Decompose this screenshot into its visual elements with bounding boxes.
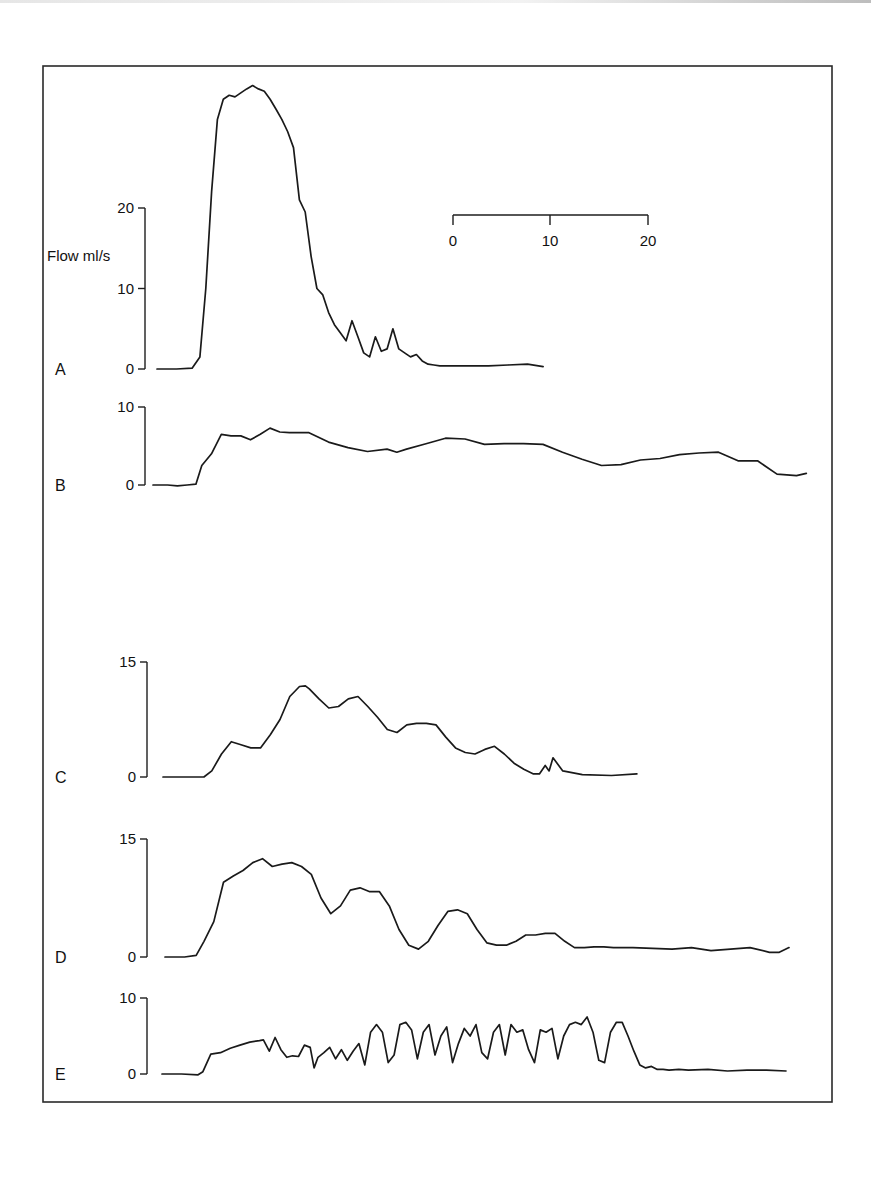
panel-label-c: C	[55, 769, 67, 786]
y-tick-label-c-0: 0	[128, 768, 136, 785]
uroflow-figure: 0 10 20 Flow ml/s 01020A010B015C015D010E	[0, 0, 871, 1187]
panel-label-b: B	[55, 477, 66, 494]
panel-label-a: A	[55, 361, 66, 378]
y-tick-label-a-0: 0	[126, 360, 134, 377]
time-scale-label-0: 0	[449, 232, 457, 249]
flow-trace-a	[157, 86, 543, 369]
panels: 01020A010B015C015D010E	[55, 86, 806, 1083]
y-tick-label-b-0: 0	[126, 476, 134, 493]
time-scale-bar: 0 10 20	[449, 215, 657, 249]
panel-label-e: E	[55, 1066, 66, 1083]
panel-c: 015C	[55, 653, 637, 786]
panel-b: 010B	[55, 398, 806, 494]
figure-frame	[43, 66, 832, 1102]
flow-trace-d	[165, 859, 789, 957]
panel-e: 010E	[55, 989, 786, 1083]
panel-a: 01020A	[55, 86, 543, 378]
y-tick-label-c-1: 15	[119, 653, 136, 670]
y-tick-label-d-0: 0	[128, 948, 136, 965]
flow-trace-e	[162, 1017, 786, 1075]
y-tick-label-a-1: 10	[117, 280, 134, 297]
y-axis-label: Flow ml/s	[47, 247, 110, 264]
panel-label-d: D	[55, 949, 67, 966]
y-tick-label-e-0: 0	[128, 1065, 136, 1082]
y-tick-label-d-1: 15	[119, 830, 136, 847]
y-tick-label-b-1: 10	[117, 398, 134, 415]
panel-d: 015D	[55, 830, 789, 966]
flow-trace-b	[153, 428, 806, 486]
time-scale-label-1: 10	[542, 232, 559, 249]
time-scale-label-2: 20	[640, 232, 657, 249]
y-tick-label-e-1: 10	[119, 989, 136, 1006]
flow-trace-c	[163, 686, 637, 777]
y-tick-label-a-2: 20	[117, 199, 134, 216]
